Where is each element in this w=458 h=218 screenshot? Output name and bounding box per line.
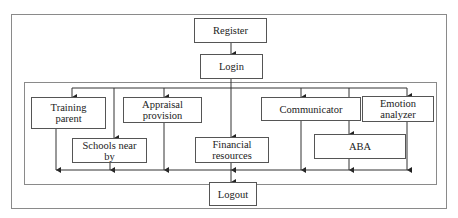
communicator-node: Communicator: [261, 97, 361, 121]
aba-node: ABA: [314, 134, 406, 159]
aba-label: ABA: [349, 141, 371, 152]
financial-resources-node: Financial resources: [195, 137, 269, 163]
emotion-label-line2: analyzer: [380, 109, 416, 120]
emotion-label-line1: Emotion: [380, 98, 416, 109]
training-parent-node: Training parent: [31, 97, 106, 129]
login-label: Login: [219, 61, 244, 72]
schools-label-line2: by: [104, 151, 115, 162]
register-node: Register: [194, 18, 267, 43]
appraisal-label-line1: Appraisal: [142, 99, 183, 110]
login-node: Login: [200, 54, 263, 79]
appraisal-label-line2: provision: [143, 110, 183, 121]
training-parent-label-line2: parent: [55, 113, 81, 124]
logout-label: Logout: [218, 189, 248, 200]
training-parent-label-line1: Training: [51, 102, 87, 113]
financial-label-line2: resources: [212, 150, 252, 161]
logout-node: Logout: [209, 182, 257, 206]
financial-label-line1: Financial: [212, 139, 251, 150]
appraisal-provision-node: Appraisal provision: [123, 97, 202, 123]
communicator-label: Communicator: [280, 104, 343, 115]
schools-near-by-node: Schools near by: [72, 138, 147, 163]
register-label: Register: [213, 25, 248, 36]
schools-label-line1: Schools near: [83, 140, 137, 151]
emotion-analyzer-node: Emotion analyzer: [362, 96, 434, 122]
